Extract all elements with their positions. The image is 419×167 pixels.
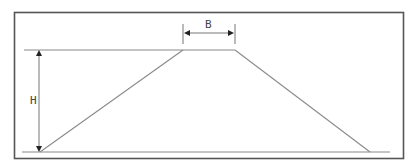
width-label: B <box>205 18 212 31</box>
right-slope <box>235 50 370 152</box>
left-slope <box>40 50 183 152</box>
arrow-up-icon <box>36 50 42 56</box>
trapezoid-diagram: H B <box>0 0 419 167</box>
diagram-frame <box>15 13 404 159</box>
arrow-right-icon <box>228 30 234 36</box>
height-dimension: H <box>30 50 42 152</box>
height-label: H <box>30 94 37 107</box>
width-dimension: B <box>183 18 235 44</box>
arrow-left-icon <box>184 30 190 36</box>
